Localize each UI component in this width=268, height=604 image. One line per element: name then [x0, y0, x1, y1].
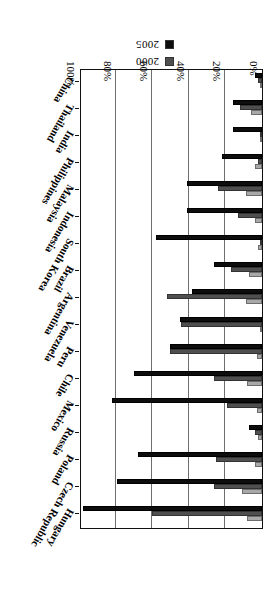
bar-south-korea-2005	[156, 235, 262, 240]
bar-argentina-1990	[246, 300, 262, 305]
bar-russia-1990	[258, 435, 262, 440]
bar-chile-2005	[134, 371, 262, 376]
legend-item: 2005	[136, 39, 174, 50]
bar-china-2000	[258, 78, 262, 83]
bar-indonesia-2005	[187, 208, 262, 213]
bar-group	[81, 100, 262, 115]
bar-chile-2000	[214, 376, 262, 381]
bar-group	[81, 425, 262, 440]
bar-india-1990	[260, 137, 262, 142]
x-tick-label: 0%	[248, 61, 259, 76]
bar-thailand-2005	[233, 100, 262, 105]
bar-brazil-2005	[214, 262, 262, 267]
bar-argentina-2000	[167, 295, 262, 300]
bar-south-korea-2000	[260, 240, 262, 245]
bar-group	[81, 290, 262, 305]
x-tick-label: 80%	[102, 61, 113, 81]
bar-mexico-1990	[257, 408, 262, 413]
bar-mexico-2000	[227, 403, 262, 408]
bar-chile-1990	[247, 381, 262, 386]
bar-chart-figure: 199020002005 0%20%40%60%80%100% HungaryC…	[0, 0, 268, 604]
bar-philippines-2005	[222, 154, 262, 159]
rotated-figure-container: 199020002005 0%20%40%60%80%100% HungaryC…	[0, 0, 268, 604]
x-tick-label: 40%	[175, 61, 186, 81]
legend-swatch-icon	[165, 57, 174, 66]
bar-thailand-1990	[251, 110, 262, 115]
bar-china-1990	[260, 83, 262, 88]
bar-peru-1990	[257, 354, 262, 359]
bar-group	[81, 262, 262, 277]
bar-group	[81, 235, 262, 250]
legend-label: 2005	[136, 39, 159, 50]
bar-mexico-2005	[112, 398, 262, 403]
bar-hungary-2005	[83, 506, 262, 511]
bar-poland-1990	[255, 462, 262, 467]
bar-poland-2005	[138, 452, 262, 457]
bar-venezuela-2000	[181, 322, 262, 327]
bar-brazil-1990	[249, 272, 262, 277]
bar-group	[81, 317, 262, 332]
bar-india-2000	[260, 132, 262, 137]
bar-hungary-1990	[247, 516, 262, 521]
bar-russia-2000	[255, 430, 262, 435]
bar-malaysia-2005	[187, 181, 262, 186]
bar-peru-2005	[171, 344, 263, 349]
bar-argentina-2005	[192, 290, 262, 295]
bar-indonesia-2000	[238, 213, 262, 218]
bar-group	[81, 181, 262, 196]
x-tick-label: 20%	[211, 61, 222, 81]
bar-group	[81, 208, 262, 223]
bar-south-korea-1990	[258, 245, 262, 250]
bar-group	[81, 154, 262, 169]
bar-group	[81, 127, 262, 142]
bar-thailand-2000	[240, 105, 262, 110]
category-label-chile: Chile	[54, 372, 76, 399]
bar-india-2005	[233, 127, 262, 132]
bar-malaysia-2000	[218, 186, 262, 191]
bar-venezuela-2005	[180, 317, 262, 322]
bar-venezuela-1990	[260, 327, 262, 332]
bar-group	[81, 398, 262, 413]
bar-group	[81, 371, 262, 386]
plot-area	[80, 69, 263, 529]
bar-group	[81, 479, 262, 494]
bar-peru-2000	[171, 349, 263, 354]
bar-malaysia-1990	[246, 191, 262, 196]
bar-philippines-1990	[255, 164, 262, 169]
category-label-china: China	[52, 74, 76, 104]
bar-russia-2005	[249, 425, 262, 430]
bar-group	[81, 452, 262, 467]
bar-hungary-2000	[152, 511, 262, 516]
bar-brazil-2000	[231, 267, 262, 272]
bar-philippines-2000	[258, 159, 262, 164]
bar-group	[81, 344, 262, 359]
legend-swatch-icon	[165, 40, 174, 49]
bar-poland-2000	[216, 457, 262, 462]
bar-group	[81, 506, 262, 521]
bar-czech-republic-1990	[242, 489, 262, 494]
x-tick-label: 60%	[138, 61, 149, 81]
bar-czech-republic-2005	[117, 479, 262, 484]
bar-indonesia-1990	[255, 218, 262, 223]
bar-czech-republic-2000	[214, 484, 262, 489]
